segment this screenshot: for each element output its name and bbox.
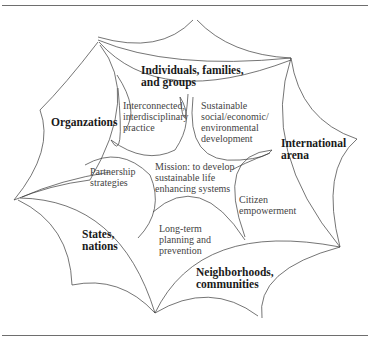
- label-citizen: Citizen empowerment: [239, 194, 296, 216]
- label-partnership: Partnership strategies: [90, 166, 136, 188]
- label-individuals: Individuals, families, and groups: [141, 64, 244, 88]
- label-organizations: Organzations: [51, 116, 117, 128]
- label-longterm: Long-term planning and prevention: [159, 223, 211, 256]
- label-international: International arena: [281, 137, 346, 161]
- label-interconnected: Interconnected, interdisciplinary practi…: [123, 100, 189, 133]
- states-shape: [18, 198, 155, 313]
- label-neighborhoods: Neighborhoods, communities: [196, 266, 274, 290]
- label-mission: Mission: to develop sustainable life enh…: [155, 161, 234, 194]
- label-sustainable: Sustainable social/economic/ environment…: [201, 100, 269, 144]
- label-states: States, nations: [82, 228, 118, 252]
